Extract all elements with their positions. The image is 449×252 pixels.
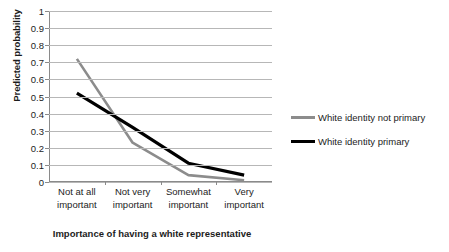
y-axis-tick-mark (45, 45, 49, 46)
y-axis-tick-label: 0.5 (31, 91, 44, 102)
x-axis-category-label: Not at allimportant (57, 186, 97, 211)
x-axis-category-label-line: Not very (113, 186, 153, 199)
chart-legend: White identity not primaryWhite identity… (291, 108, 446, 156)
legend-item[interactable]: White identity primary (291, 132, 446, 150)
x-axis-category-label-line: Very (224, 186, 264, 199)
x-axis-tick-mark (161, 181, 162, 185)
predicted-probability-line-chart: Predicted probability 00.10.20.30.40.50.… (0, 0, 449, 252)
y-axis-tick-label: 0.8 (31, 40, 44, 51)
y-axis-tick-label: 0.6 (31, 74, 44, 85)
y-axis-tick-mark (45, 28, 49, 29)
x-axis-category-label-line: important (57, 199, 97, 212)
x-axis-category-label: Not veryimportant (113, 186, 153, 211)
x-axis-category-label-line: Not at all (57, 186, 97, 199)
y-axis-tick-mark (45, 62, 49, 63)
gridline (49, 79, 272, 80)
y-axis-tick-label: 0.9 (31, 23, 44, 34)
x-axis-category-labels: Not at allimportantNot veryimportantSome… (49, 186, 272, 220)
gridline (49, 45, 272, 46)
x-axis-tick-mark (105, 181, 106, 185)
y-axis-tick-label: 0.7 (31, 57, 44, 68)
y-axis-tick-mark (45, 131, 49, 132)
legend-item-label: White identity not primary (318, 112, 425, 123)
y-axis-tick-mark (45, 97, 49, 98)
gridline (49, 62, 272, 63)
gridline (49, 165, 272, 166)
gridline (49, 28, 272, 29)
x-axis-tick-mark (216, 181, 217, 185)
x-axis-category-label: Veryimportant (224, 186, 264, 211)
x-axis-category-label-line: important (113, 199, 153, 212)
y-axis-tick-label: 0.2 (31, 142, 44, 153)
y-axis-tick-mark (45, 79, 49, 80)
y-axis-tick-label: 1 (39, 6, 44, 17)
y-axis-tick-mark (45, 165, 49, 166)
legend-color-swatch (291, 116, 315, 119)
x-axis-category-label-line: important (224, 199, 264, 212)
y-axis-tick-label: 0.3 (31, 125, 44, 136)
legend-item[interactable]: White identity not primary (291, 108, 446, 126)
legend-item-label: White identity primary (318, 136, 409, 147)
x-axis-category-label: Somewhatimportant (166, 186, 211, 211)
y-axis-tick-mark (45, 182, 49, 183)
y-axis-tick-mark (45, 11, 49, 12)
y-axis-tick-label: 0.1 (31, 159, 44, 170)
gridline (49, 131, 272, 132)
series-line (77, 93, 244, 175)
series-line (77, 59, 244, 180)
y-axis-tick-mark (45, 148, 49, 149)
x-axis-category-label-line: Somewhat (166, 186, 211, 199)
legend-color-swatch (291, 140, 315, 143)
gridline (49, 11, 272, 12)
y-axis-tick-labels: 00.10.20.30.40.50.60.70.80.91 (14, 11, 44, 182)
x-axis-title: Importance of having a white representat… (22, 228, 282, 239)
y-axis-tick-label: 0 (39, 177, 44, 188)
y-axis-tick-mark (45, 114, 49, 115)
gridline (49, 148, 272, 149)
plot-area (49, 11, 272, 182)
y-axis-tick-label: 0.4 (31, 108, 44, 119)
x-axis-category-label-line: important (166, 199, 211, 212)
gridline (49, 97, 272, 98)
gridline (49, 114, 272, 115)
